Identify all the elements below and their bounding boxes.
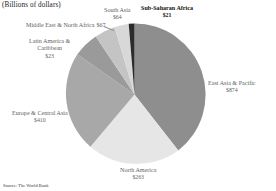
label-north-america-name: North America [120,167,156,173]
label-europe-central-asia: Europe & Central Asia $410 [12,110,68,125]
pie-svg [62,22,207,167]
label-europe-central-asia-value: $410 [12,117,68,124]
label-sub-saharan-africa: Sub-Saharan Africa $21 [141,5,193,20]
label-middle-east-value: $67 [96,22,105,28]
label-south-asia-value: $64 [104,14,131,21]
label-europe-central-asia-name: Europe & Central Asia [12,110,68,116]
pie-chart-figure: (Billions of dollars) South Asia $64 Sub… [0,0,276,191]
label-sub-saharan-africa-value: $21 [141,12,193,19]
label-latin-america-value: $23 [29,53,70,60]
label-east-asia-pacific: East Asia & Pacific $874 [208,80,256,95]
label-north-america: North America $263 [120,167,156,182]
units-note: (Billions of dollars) [2,1,61,9]
label-middle-east-name: Middle East & North Africa [26,22,94,28]
label-middle-east: Middle East & North Africa$67 [26,22,106,29]
label-east-asia-pacific-value: $874 [208,87,256,94]
label-north-america-value: $263 [120,174,156,181]
label-latin-america-name2: Caribbean [29,45,70,52]
label-south-asia: South Asia $64 [104,7,131,22]
label-south-asia-name: South Asia [104,7,131,13]
pie-graphic [62,22,207,167]
label-east-asia-pacific-name: East Asia & Pacific [208,80,256,86]
label-latin-america: Latin America & Caribbean $23 [29,38,70,60]
label-latin-america-name: Latin America & [29,38,70,44]
label-sub-saharan-africa-name: Sub-Saharan Africa [141,5,193,11]
source-note: Source: The World Bank [3,183,49,188]
